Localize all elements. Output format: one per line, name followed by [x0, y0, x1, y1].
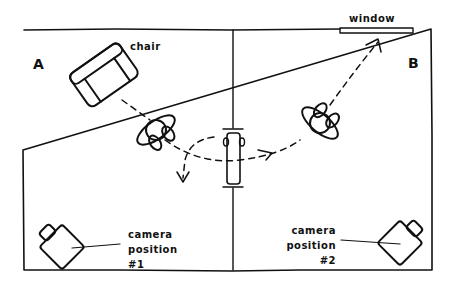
person-b-icon — [297, 95, 349, 145]
camera-2-icon — [377, 213, 429, 265]
camera-1-icon — [32, 217, 84, 269]
camera-2-label-line-1: camera — [291, 225, 336, 236]
window-icon — [340, 28, 413, 33]
window-label: window — [349, 13, 395, 24]
motion-path — [122, 39, 381, 182]
room-label-a: A — [33, 56, 44, 72]
camera-2-label-line-2: position — [286, 240, 336, 251]
chair-label: chair — [130, 41, 161, 52]
door-icon — [224, 133, 245, 184]
camera-2-pointer — [341, 240, 400, 244]
floor-plan-diagram: window A B B chair camera — [0, 0, 455, 300]
person-a-icon — [132, 109, 184, 157]
camera-1-label-line-2: position — [128, 244, 178, 255]
camera-1-pointer — [72, 244, 120, 248]
camera-1-label-line-1: camera — [128, 229, 173, 240]
room-label-b: B — [408, 55, 419, 71]
camera-2-label-line-3: #2 — [320, 255, 336, 266]
camera-1-label-line-3: #1 — [128, 259, 144, 270]
